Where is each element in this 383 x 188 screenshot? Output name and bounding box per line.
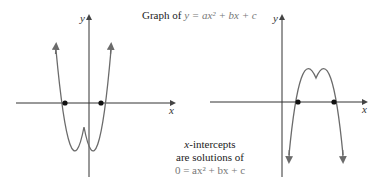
right-parabola-curve [289, 69, 343, 155]
title-prefix: Graph of [142, 9, 184, 21]
left-y-axis-label: y [80, 12, 85, 24]
title-equation: y = ax² + bx + c [184, 9, 257, 21]
note-line-1: x-intercepts [150, 138, 270, 151]
left-x-intercept-2 [98, 100, 103, 105]
right-x-intercept-2 [331, 99, 336, 104]
intercepts-note: x-intercepts are solutions of 0 = ax² + … [150, 138, 270, 177]
left-x-intercept-1 [62, 100, 67, 105]
left-parabola-curve [56, 50, 111, 151]
diagram-title: Graph of y = ax² + bx + c [142, 9, 257, 21]
right-x-intercept-1 [295, 99, 300, 104]
note-line-1-rest: -intercepts [189, 138, 235, 150]
right-y-axis-label: y [273, 12, 278, 24]
left-x-axis-label: x [169, 104, 174, 116]
note-line-2: are solutions of [150, 151, 270, 164]
note-equation: 0 = ax² + bx + c [150, 164, 270, 177]
right-x-axis-label: x [362, 103, 367, 115]
